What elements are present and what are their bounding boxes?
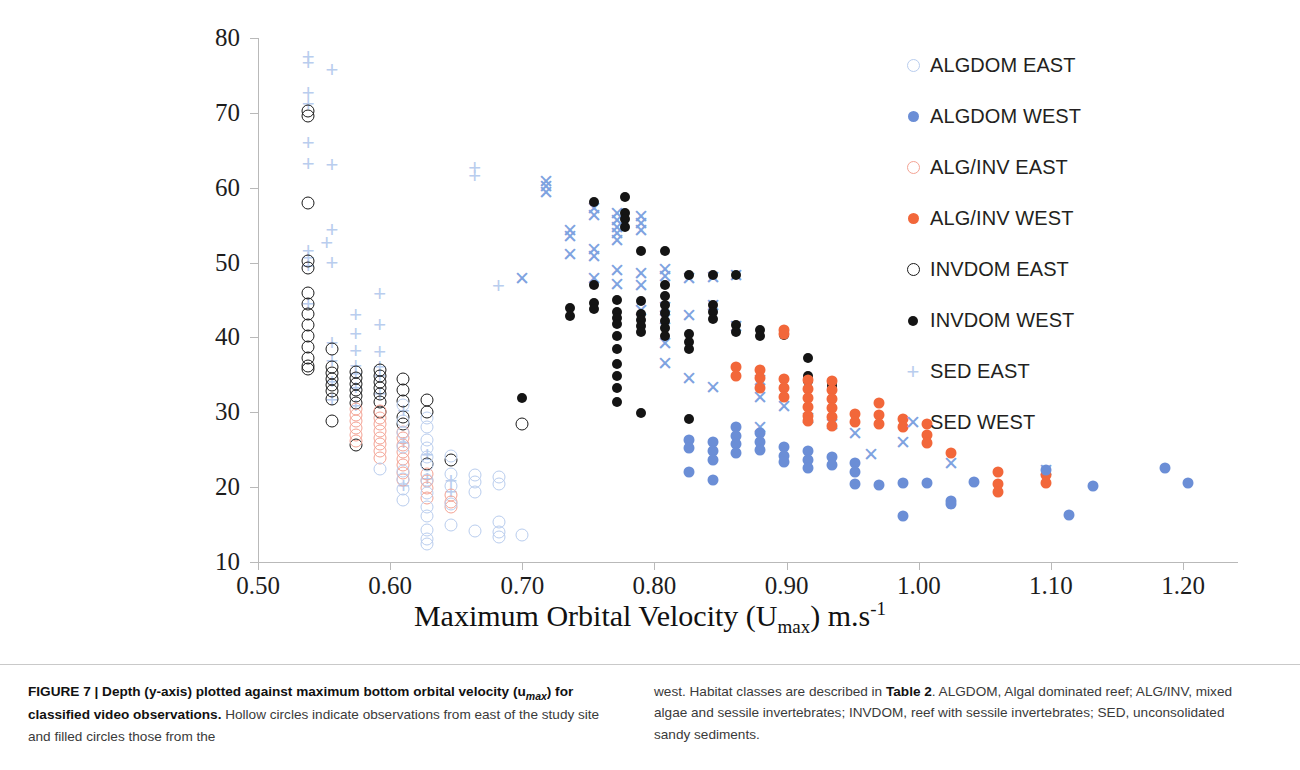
legend-item-algdom-w[interactable]: ALGDOM WEST: [900, 91, 1200, 142]
data-point-invdom_w: [612, 344, 622, 354]
cross-marker-glyph: ✕: [657, 297, 673, 316]
data-point-algdom_w: [731, 431, 742, 442]
cross-marker-glyph: ✕: [824, 415, 840, 434]
data-point-invdom_e: [373, 370, 386, 383]
cross-marker-glyph: ✕: [776, 397, 792, 416]
data-point-invdom_e: [302, 297, 315, 310]
data-point-alginv_w: [755, 372, 766, 383]
data-point-invdom_w: [660, 331, 670, 341]
cross-marker-glyph: ✕: [514, 268, 530, 287]
data-point-algdom_w: [731, 439, 742, 450]
data-point-sed_w: ✕: [705, 267, 721, 286]
plus-marker-glyph: +: [373, 356, 386, 378]
data-point-alginv_e: [421, 468, 434, 481]
data-point-invdom_w: [636, 309, 646, 319]
data-point-invdom_w: [612, 307, 622, 317]
data-point-sed_w: ✕: [538, 177, 554, 196]
data-point-invdom_e: [326, 366, 339, 379]
legend-label: ALG/INV EAST: [930, 156, 1068, 179]
data-point-invdom_e: [302, 109, 315, 122]
x-tick-label-1.00: 1.00: [874, 572, 964, 600]
data-point-alginv_e: [444, 488, 457, 501]
data-point-invdom_w: [660, 300, 670, 310]
data-point-algdom_e: [468, 475, 481, 488]
data-point-invdom_e: [373, 382, 386, 395]
plus-marker-glyph: +: [302, 132, 315, 154]
data-point-invdom_w: [708, 270, 718, 280]
cross-marker-glyph: ✕: [538, 171, 554, 190]
data-point-algdom_e: [397, 398, 410, 411]
legend-item-alginv-e[interactable]: ALG/INV EAST: [900, 142, 1200, 193]
y-tick-60: [250, 188, 259, 189]
legend-item-alginv-w[interactable]: ALG/INV WEST: [900, 193, 1200, 244]
data-point-sed_e: +: [373, 383, 386, 405]
data-point-invdom_w: [620, 222, 630, 232]
y-tick-30: [250, 412, 259, 413]
cross-marker-glyph: ✕: [728, 317, 744, 336]
plus-marker-glyph: +: [326, 252, 339, 274]
data-point-algdom_e: [421, 500, 434, 513]
data-point-invdom_w: [755, 331, 765, 341]
x-tick-0.60: [390, 562, 391, 570]
data-point-alginv_w: [755, 383, 766, 394]
data-point-algdom_w: [850, 458, 861, 469]
plus-marker-glyph: +: [445, 481, 458, 503]
y-axis-line: [258, 38, 259, 563]
cross-marker-glyph: ✕: [609, 204, 625, 223]
cross-marker-glyph: ✕: [728, 266, 744, 285]
legend-item-sed-e[interactable]: +SED EAST: [900, 346, 1200, 397]
data-point-sed_w: ✕: [609, 217, 625, 236]
data-point-sed_e: +: [302, 255, 315, 277]
data-point-invdom_w: [708, 307, 718, 317]
x-tick-label-0.70: 0.70: [477, 572, 567, 600]
cross-marker-glyph: ✕: [562, 227, 578, 246]
legend-item-algdom-e[interactable]: ALGDOM EAST: [900, 40, 1200, 91]
data-point-invdom_w: [636, 296, 646, 306]
data-point-sed_w: ✕: [752, 388, 768, 407]
data-point-algdom_e: [492, 526, 505, 539]
plus-marker-glyph: +: [373, 383, 386, 405]
x-tick-1.10: [1051, 562, 1052, 570]
data-point-algdom_w: [897, 511, 908, 522]
cross-marker-glyph: ✕: [633, 264, 649, 283]
cross-marker-glyph: ✕: [609, 261, 625, 280]
data-point-invdom_w: [660, 246, 670, 256]
data-point-algdom_e: [492, 531, 505, 544]
data-point-invdom_w: [612, 313, 622, 323]
cross-marker-glyph: ✕: [705, 296, 721, 315]
data-point-sed_w: ✕: [586, 198, 602, 217]
data-point-sed_e: +: [326, 371, 339, 393]
legend-item-sed-w[interactable]: ✕SED WEST: [900, 397, 1200, 448]
cross-marker-glyph: ✕: [586, 205, 602, 224]
cross-marker-glyph: ✕: [562, 220, 578, 239]
data-point-alginv_w: [993, 479, 1004, 490]
legend-item-invdom-e[interactable]: INVDOM EAST: [900, 244, 1200, 295]
data-point-sed_e: +: [326, 59, 339, 81]
x-axis-title: Maximum Orbital Velocity (Umax) m.s-1: [0, 598, 1300, 638]
data-point-invdom_w: [589, 298, 599, 308]
plus-marker-glyph: +: [349, 363, 362, 385]
data-point-alginv_e: [349, 415, 362, 428]
data-point-alginv_w: [1040, 477, 1051, 488]
data-point-invdom_w: [660, 291, 670, 301]
legend-item-invdom-w[interactable]: INVDOM WEST: [900, 295, 1200, 346]
data-point-invdom_e: [302, 362, 315, 375]
x-tick-1.20: [1183, 562, 1184, 570]
cross-marker-glyph: ✕: [705, 377, 721, 396]
plus-marker-glyph: +: [468, 165, 481, 187]
data-point-algdom_e: [397, 441, 410, 454]
data-point-invdom_e: [349, 365, 362, 378]
data-point-invdom_e: [349, 389, 362, 402]
caption-column-left: FIGURE 7 | Depth (y-axis) plotted agains…: [28, 681, 620, 770]
cross-marker-glyph: ✕: [705, 267, 721, 286]
plus-marker-glyph: +: [349, 355, 362, 377]
data-point-alginv_e: [397, 425, 410, 438]
data-point-invdom_w: [565, 311, 575, 321]
data-point-invdom_e: [421, 406, 434, 419]
data-point-algdom_e: [421, 487, 434, 500]
data-point-invdom_w: [589, 280, 599, 290]
y-tick-20: [250, 487, 259, 488]
data-point-sed_w: ✕: [657, 259, 673, 278]
data-point-algdom_e: [468, 469, 481, 482]
data-point-sed_w: ✕: [657, 267, 673, 286]
